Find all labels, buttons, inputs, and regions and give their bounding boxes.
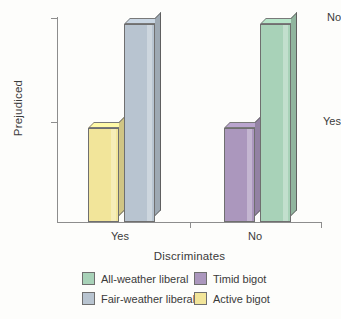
legend-swatch-icon — [82, 292, 95, 305]
bar-side-face — [291, 12, 297, 216]
y-axis-line — [57, 17, 58, 223]
y-tick-mark-no — [51, 18, 57, 19]
bar-front-face — [224, 128, 255, 222]
y-tick-label-yes: Yes — [297, 116, 341, 127]
legend-item-active-bigot: Active bigot — [194, 292, 314, 305]
x-tick-label-no: No — [225, 231, 285, 242]
legend-item-label: Active bigot — [213, 293, 270, 305]
x-tick-label-yes: Yes — [90, 231, 150, 242]
x-tick-mark-right — [321, 223, 322, 228]
chart-legend: All-weather liberal Timid bigot Fair-wea… — [82, 272, 314, 305]
legend-item-all-weather-liberal: All-weather liberal — [82, 272, 194, 285]
bar-chart: No Yes Prejudiced Yes No Discriminates A… — [0, 0, 341, 319]
bar-front-face — [260, 24, 291, 222]
legend-item-label: All-weather liberal — [101, 273, 188, 285]
bar-active-bigot — [88, 128, 119, 222]
bar-all-weather-liberal — [260, 24, 291, 222]
bar-front-face — [88, 128, 119, 222]
x-tick-mark-middle — [190, 223, 191, 228]
bar-side-face — [155, 12, 161, 216]
legend-swatch-icon — [194, 272, 207, 285]
legend-item-timid-bigot: Timid bigot — [194, 272, 314, 285]
legend-swatch-icon — [194, 292, 207, 305]
legend-item-label: Timid bigot — [213, 273, 266, 285]
y-axis-title: Prejudiced — [12, 63, 24, 153]
legend-swatch-icon — [82, 272, 95, 285]
bar-timid-bigot — [224, 128, 255, 222]
legend-item-label: Fair-weather liberal — [101, 293, 195, 305]
y-tick-mark-yes — [51, 122, 57, 123]
bar-front-face — [124, 24, 155, 222]
y-tick-label-no: No — [297, 12, 341, 23]
legend-item-fair-weather-liberal: Fair-weather liberal — [82, 292, 194, 305]
bar-fair-weather-liberal — [124, 24, 155, 222]
x-axis-title: Discriminates — [57, 250, 322, 262]
